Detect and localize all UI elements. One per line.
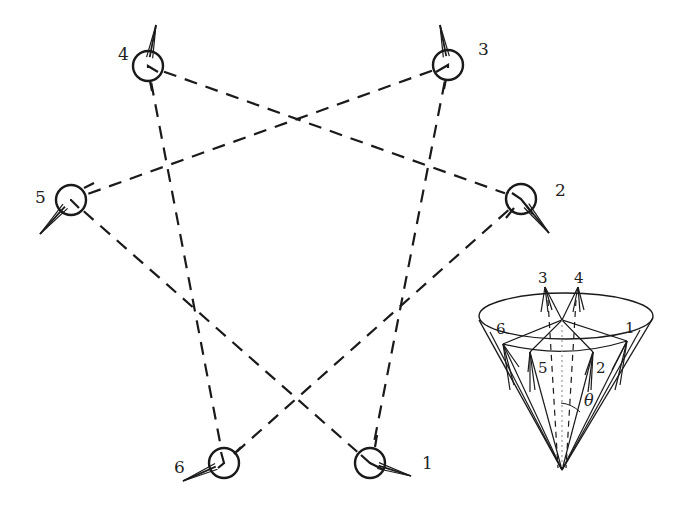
sensor-node-2: 2: [506, 180, 566, 233]
link-4-6: [151, 83, 221, 447]
cone-inner-arc: [503, 341, 627, 351]
arrow-fan-4: [573, 287, 584, 312]
node-label-3: 3: [478, 39, 489, 59]
cone-side-right: [562, 318, 653, 470]
node-fan-line: [40, 204, 63, 234]
diagram-canvas: 123456: [0, 0, 674, 507]
cone-gen-6b: [490, 332, 562, 470]
cone-inset: [479, 287, 653, 470]
node-label-2: 2: [555, 180, 566, 200]
link-5-1: [84, 211, 357, 452]
cone-label-2: 2: [596, 359, 606, 377]
node-label-6: 6: [174, 457, 185, 477]
dashed-links: [84, 71, 509, 452]
node-label-4: 4: [118, 44, 129, 64]
sensor-node-5: 5: [35, 183, 94, 234]
link-2-6: [237, 210, 509, 451]
link-3-5: [87, 71, 432, 195]
cone-label-5: 5: [538, 359, 548, 377]
cone-label-4: 4: [574, 269, 584, 287]
node-tick: [84, 183, 94, 188]
cone-gen-2: [562, 352, 593, 470]
cone-label-3: 3: [538, 269, 548, 287]
cone-side-left: [479, 320, 562, 470]
node-tick: [150, 81, 152, 91]
sensor-nodes: 123456: [35, 25, 566, 481]
cone-label-theta: θ: [584, 391, 594, 410]
node-label-1: 1: [422, 453, 433, 473]
sensor-node-1: 1: [355, 435, 433, 478]
arrow-fan-2: [585, 352, 593, 392]
sensor-node-3: 3: [433, 25, 489, 89]
node-fan-line: [524, 207, 549, 233]
cone-label-6: 6: [496, 320, 506, 338]
sensor-node-4: 4: [118, 25, 163, 91]
link-3-1: [373, 82, 444, 447]
sensor-node-6: 6: [174, 447, 241, 481]
arrow-fan-3: [541, 287, 552, 312]
link-4-2: [164, 72, 505, 194]
cone-label-1: 1: [625, 319, 635, 337]
node-tick: [234, 447, 241, 454]
node-label-5: 5: [35, 187, 46, 207]
